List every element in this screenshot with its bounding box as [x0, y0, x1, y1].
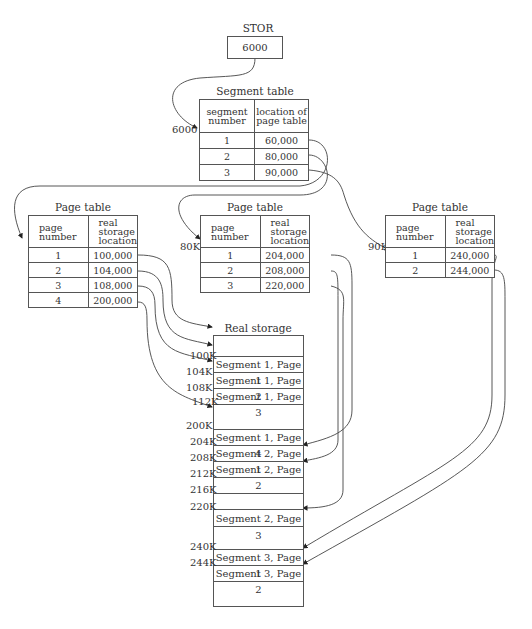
table-row: 3 90,000 [200, 165, 309, 181]
storage-cell: Segment 2, Page 3 [214, 509, 303, 527]
header-line: location [456, 236, 494, 245]
table-row: 1100,000 [29, 248, 138, 263]
stor-register: 6000 [227, 36, 283, 59]
storage-cell: Segment 2, Page 1 [214, 445, 303, 462]
page-table-3: page number real storage location 1240,0… [385, 215, 495, 278]
segment-table-address: 6000 [172, 124, 197, 135]
page-number: 4 [29, 293, 89, 308]
real-storage-location: 204,000 [260, 248, 309, 263]
real-storage-title: Real storage [213, 322, 303, 334]
stor-value: 6000 [242, 42, 267, 53]
storage-cell: Segment 1, Page 3 [214, 388, 303, 405]
table-row: 3220,000 [201, 278, 310, 293]
segment-table-header-location: location of page table [255, 100, 309, 133]
segment-number: 3 [200, 165, 255, 181]
address-label: 200K [186, 420, 213, 431]
table-row: 1240,000 [386, 248, 495, 263]
real-storage-location: 100,000 [88, 248, 137, 263]
storage-cell: Segment 3, Page 1 [214, 549, 303, 566]
table-row: 2208,000 [201, 263, 310, 278]
address-label: 216K [190, 484, 217, 495]
page-table-1-title: Page table [28, 201, 138, 213]
page-table-location: 90,000 [255, 165, 309, 181]
page-table-location: 80,000 [255, 149, 309, 165]
page-number: 2 [386, 263, 446, 278]
page-table-2: page number real storage location 1204,0… [200, 215, 310, 293]
page-table-location: 60,000 [255, 133, 309, 149]
real-storage-location: 108,000 [88, 278, 137, 293]
storage-cell: Segment 1, Page 2 [214, 372, 303, 389]
address-label: 112K [192, 396, 219, 407]
page-number: 2 [29, 263, 89, 278]
table-row: 1204,000 [201, 248, 310, 263]
page-number: 3 [29, 278, 89, 293]
header-line: number [200, 116, 254, 125]
address-label: 220K [190, 501, 217, 512]
page-table-header-location: real storage location [88, 216, 137, 248]
table-row: 2104,000 [29, 263, 138, 278]
header-line: number [396, 232, 445, 241]
page-number: 2 [201, 263, 261, 278]
page-table-2-address: 80K [180, 241, 200, 252]
address-label: 108K [186, 382, 213, 393]
real-storage-location: 104,000 [88, 263, 137, 278]
header-line: number [211, 232, 260, 241]
segment-table-header-segment: segment number [200, 100, 255, 133]
page-table-header-page: page number [201, 216, 261, 248]
segment-number: 2 [200, 149, 255, 165]
page-table-1: page number real storage location 1100,0… [28, 215, 138, 308]
table-row: 3108,000 [29, 278, 138, 293]
address-label: 244K [190, 557, 217, 568]
address-label: 212K [190, 468, 217, 479]
storage-cell [214, 404, 303, 430]
table-row: 2244,000 [386, 263, 495, 278]
page-number: 1 [201, 248, 261, 263]
storage-cell: Segment 1, Page 4 [214, 429, 303, 446]
header-line: location [271, 236, 309, 245]
storage-cell [214, 581, 303, 606]
real-storage-block: Segment 1, Page 1 Segment 1, Page 2 Segm… [213, 335, 304, 607]
storage-cell: Segment 2, Page 2 [214, 461, 303, 478]
page-table-2-title: Page table [200, 201, 310, 213]
storage-cell [214, 477, 303, 494]
storage-cell [214, 526, 303, 550]
page-number: 3 [201, 278, 261, 293]
address-label: 104K [186, 366, 213, 377]
table-row: 2 80,000 [200, 149, 309, 165]
header-line: number [39, 232, 88, 241]
header-line: location [99, 236, 137, 245]
header-line: page table [255, 116, 308, 125]
segment-number: 1 [200, 133, 255, 149]
address-label: 204K [190, 436, 217, 447]
storage-cell [214, 493, 303, 510]
storage-cell: Segment 1, Page 1 [214, 356, 303, 373]
table-row: 4200,000 [29, 293, 138, 308]
page-table-header-page: page number [386, 216, 446, 248]
page-table-header-page: page number [29, 216, 89, 248]
page-table-3-title: Page table [385, 201, 495, 213]
page-table-header-location: real storage location [445, 216, 494, 248]
real-storage-location: 200,000 [88, 293, 137, 308]
table-row: 1 60,000 [200, 133, 309, 149]
storage-cell: Segment 3, Page 2 [214, 565, 303, 582]
address-label: 100K [190, 350, 217, 361]
real-storage-location: 240,000 [445, 248, 494, 263]
real-storage-location: 220,000 [260, 278, 309, 293]
segment-table-title: Segment table [200, 85, 310, 97]
page-table-header-location: real storage location [260, 216, 309, 248]
storage-cell [214, 335, 303, 356]
real-storage-location: 244,000 [445, 263, 494, 278]
page-number: 1 [386, 248, 446, 263]
stor-label: STOR [228, 22, 288, 34]
segment-table: segment number location of page table 1 … [199, 99, 309, 181]
address-label: 208K [190, 452, 217, 463]
real-storage-location: 208,000 [260, 263, 309, 278]
page-number: 1 [29, 248, 89, 263]
address-label: 240K [190, 541, 217, 552]
